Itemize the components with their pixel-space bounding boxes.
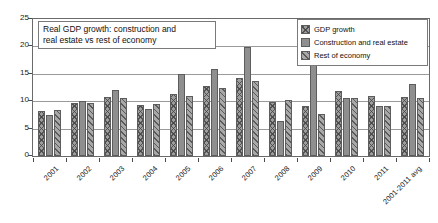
bar [120, 98, 128, 156]
bar [277, 121, 285, 156]
legend-label-gdp-growth: GDP growth [314, 25, 355, 34]
y-tick-label: 5 [3, 124, 29, 132]
y-tick-label: 15 [3, 69, 29, 77]
bar [137, 105, 145, 157]
x-tick-mark [231, 158, 232, 162]
bar [318, 114, 326, 156]
x-tick-mark [132, 158, 133, 162]
x-tick-mark [363, 158, 364, 162]
chart-legend: GDP growth Construction and real estate … [297, 19, 428, 66]
x-tick-label: 2011 [372, 164, 390, 182]
bar [351, 98, 359, 156]
legend-swatch-gdp-growth [301, 25, 310, 34]
bar [104, 97, 112, 156]
x-tick-mark [429, 158, 430, 162]
bar [170, 94, 178, 156]
bar [401, 97, 409, 156]
bar [87, 103, 95, 156]
x-tick-mark [99, 158, 100, 162]
bar [54, 110, 62, 156]
bar [409, 84, 417, 156]
bar [186, 96, 194, 156]
x-tick-mark [264, 158, 265, 162]
bar [71, 103, 79, 156]
legend-item-gdp-growth: GDP growth [301, 23, 425, 36]
bar [285, 100, 293, 156]
chart-title-box: Real GDP growth: construction and real e… [38, 21, 216, 49]
legend-label-construction-real-estate: Construction and real estate [314, 38, 408, 47]
x-tick-mark [330, 158, 331, 162]
bar [112, 90, 120, 156]
x-tick-mark [165, 158, 166, 162]
x-tick-label: 2007 [239, 164, 257, 182]
x-tick-label: 2002 [74, 164, 92, 182]
bar [343, 98, 351, 156]
x-tick-mark [33, 158, 34, 162]
x-tick-label: 2001 [41, 164, 59, 182]
x-tick-mark [297, 158, 298, 162]
bar [236, 78, 244, 156]
bar [244, 47, 252, 156]
chart-title-line-2: real estate vs rest of economy [43, 35, 212, 46]
x-tick-label: 2006 [206, 164, 224, 182]
chart-container: 0510152025 20012002200320042005200620072… [0, 0, 438, 223]
y-axis: 0510152025 [0, 18, 29, 157]
bar [38, 111, 46, 156]
bar [252, 81, 260, 156]
legend-swatch-rest-of-economy [301, 51, 310, 60]
x-tick-label: 2010 [338, 164, 356, 182]
bar [211, 69, 219, 156]
bar [417, 98, 425, 156]
y-tick-label: 25 [3, 14, 29, 22]
x-tick-mark [66, 158, 67, 162]
bar-group [236, 19, 260, 156]
bar [153, 104, 161, 156]
chart-title-line-1: Real GDP growth: construction and [43, 24, 212, 35]
bar [376, 106, 384, 156]
bar [46, 115, 54, 156]
bar [368, 96, 376, 156]
bar [269, 102, 277, 156]
bar [384, 106, 392, 156]
x-axis: 2001200220032004200520062007200820092010… [33, 158, 429, 220]
bar [302, 106, 310, 156]
x-tick-label: 2009 [305, 164, 323, 182]
y-tick-label: 20 [3, 41, 29, 49]
bar [219, 88, 227, 156]
legend-item-construction-real-estate: Construction and real estate [301, 36, 425, 49]
x-tick-label: 2004 [140, 164, 158, 182]
bar [79, 101, 87, 156]
x-tick-label: 2005 [173, 164, 191, 182]
x-tick-label: 2003 [107, 164, 125, 182]
legend-swatch-construction-real-estate [301, 38, 310, 47]
bar [178, 74, 186, 156]
legend-label-rest-of-economy: Rest of economy [314, 51, 370, 60]
x-tick-label: 2008 [272, 164, 290, 182]
bar [145, 109, 153, 156]
bar [203, 86, 211, 156]
legend-item-rest-of-economy: Rest of economy [301, 49, 425, 62]
y-tick-label: 0 [3, 151, 29, 159]
bar-group [269, 19, 293, 156]
x-tick-mark [396, 158, 397, 162]
y-tick-label: 10 [3, 96, 29, 104]
x-tick-mark [198, 158, 199, 162]
bar [335, 91, 343, 156]
